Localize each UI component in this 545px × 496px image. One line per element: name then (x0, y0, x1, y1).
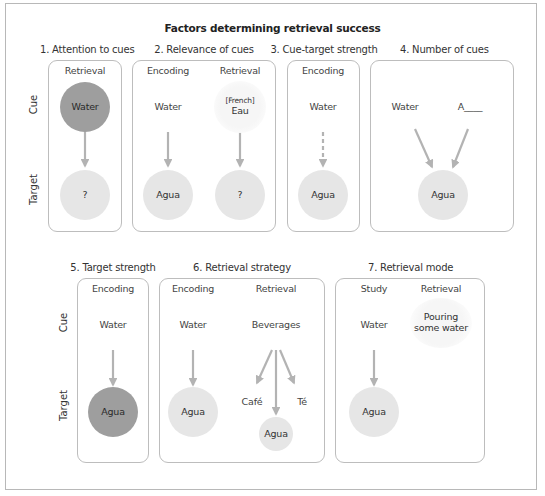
target-label: Agua (181, 407, 205, 418)
column-header: Retrieval (220, 65, 260, 76)
cue-label-water: Water (391, 101, 418, 112)
column-header: Encoding (147, 65, 189, 76)
cue-circle-pouring-water: Pouring some water (410, 298, 472, 348)
cue-label-beverages: Beverages (252, 319, 301, 330)
cue-circle-eau: [French] Eau (214, 81, 266, 133)
cue-label: Water (154, 101, 181, 112)
target-label: ? (83, 190, 88, 201)
cue-label: Water (360, 319, 387, 330)
target-circle-agua-retrieved: Agua (259, 417, 293, 451)
target-label: Agua (362, 407, 386, 418)
candidate-label-cafe: Café (242, 396, 263, 407)
column-header: Encoding (172, 283, 214, 294)
target-circle-unknown: ? (215, 170, 265, 220)
cue-label: Water (99, 319, 126, 330)
panel-title-retrieval-strategy: 6. Retrieval strategy (190, 262, 294, 273)
column-header: Retrieval (65, 65, 105, 76)
figure-title: Factors determining retrieval success (0, 22, 545, 34)
column-header: Retrieval (256, 283, 296, 294)
column-header: Encoding (302, 65, 344, 76)
target-label: Agua (156, 190, 180, 201)
panel-title-relevance: 2. Relevance of cues (154, 44, 254, 55)
target-label: Agua (431, 190, 455, 201)
panel-title-attention: 1. Attention to cues (40, 44, 130, 55)
target-circle-agua: Agua (418, 170, 468, 220)
cue-circle-water: Water (60, 82, 110, 132)
target-circle-agua: Agua (143, 170, 193, 220)
target-circle-unknown: ? (60, 170, 110, 220)
target-label: Agua (311, 190, 335, 201)
target-circle-agua-strong: Agua (88, 387, 138, 437)
panel-title-number-of-cues: 4. Number of cues (400, 44, 484, 55)
panel-title-retrieval-mode: 7. Retrieval mode (368, 262, 452, 273)
cue-label: Water (71, 102, 98, 113)
column-header: Encoding (92, 283, 134, 294)
cue-label-line2: some water (414, 323, 468, 334)
panel-title-cue-target-strength: 3. Cue-target strength (270, 44, 378, 55)
target-circle-agua: Agua (168, 387, 218, 437)
target-label: Agua (101, 407, 125, 418)
target-label: ? (238, 190, 243, 201)
cue-label: Water (309, 101, 336, 112)
column-header: Study (361, 283, 387, 294)
column-header: Retrieval (421, 283, 461, 294)
cue-label: Eau (231, 105, 248, 116)
panel-title-target-strength: 5. Target strength (68, 262, 158, 273)
row-label-target-bottom: Target (58, 381, 69, 431)
target-circle-agua: Agua (349, 387, 399, 437)
target-label: Agua (264, 429, 288, 440)
row-label-target-top: Target (28, 165, 39, 215)
cue-label: Water (179, 319, 206, 330)
row-label-cue-top: Cue (28, 80, 39, 130)
row-label-cue-bottom: Cue (58, 298, 69, 348)
cue-label-letter-a: A____ (458, 101, 483, 112)
candidate-label-te: Té (297, 396, 307, 407)
target-circle-agua: Agua (298, 170, 348, 220)
